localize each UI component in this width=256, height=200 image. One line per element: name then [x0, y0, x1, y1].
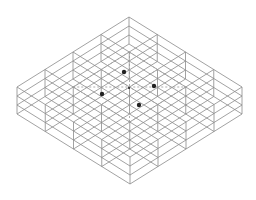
marker-dot — [152, 84, 156, 88]
marker-dot — [128, 87, 130, 89]
isometric-grid-diagram — [0, 0, 256, 200]
grid-box-drawing — [0, 0, 256, 200]
marker-dot — [137, 103, 141, 107]
marker-dot — [100, 92, 104, 96]
marker-dot — [122, 70, 126, 74]
